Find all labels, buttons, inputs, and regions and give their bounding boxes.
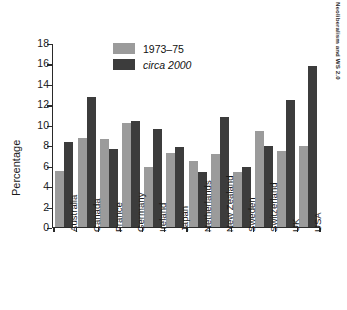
x-axis-category-label-text: Netherlands (202, 180, 213, 232)
x-axis-category-label-text: Sweden (246, 197, 257, 232)
y-tick-label: 12 (19, 98, 49, 111)
x-axis-category-label-text: Ireland (157, 203, 168, 232)
x-axis-category-label-text: Australia (68, 195, 79, 232)
legend-swatch (113, 59, 135, 70)
y-tick-label: 8 (19, 139, 49, 152)
x-axis-category-label: USA (297, 232, 319, 308)
legend-swatch (113, 43, 135, 54)
running-head: Neoliberalism and WS 2.0 (329, 0, 347, 120)
legend-item: circa 2000 (113, 58, 233, 71)
x-axis-category-label: Japan (164, 232, 186, 308)
y-tick-label: 18 (19, 37, 49, 50)
bar-chart-figure: Percentage 024681012141618 AustraliaCana… (0, 0, 330, 310)
legend-label: circa 2000 (143, 59, 191, 71)
x-axis-category-label: Netherlands (186, 232, 208, 308)
legend-item: 1973–75 (113, 42, 233, 55)
x-axis-category-label-text: UK (290, 219, 301, 232)
x-axis-category-label-text: New Zealand (224, 175, 235, 232)
x-axis-category-label: Switzerland (253, 232, 275, 308)
bar (299, 146, 308, 226)
y-tick-label: 2 (19, 201, 49, 214)
x-axis-category-label: Sweden (231, 232, 253, 308)
x-axis-category-label-text: Canada (91, 198, 102, 232)
y-tick-label: 16 (19, 57, 49, 70)
bar-group (297, 44, 319, 227)
bar (286, 100, 295, 227)
x-axis-category-label: Ireland (142, 232, 164, 308)
x-axis-category-label-text: USA (312, 212, 323, 232)
x-axis-category-label: France (98, 232, 120, 308)
x-axis-category-label: Germany (120, 232, 142, 308)
y-axis-title: Percentage (2, 88, 18, 198)
bar (55, 171, 64, 226)
x-axis-category-label: New Zealand (209, 232, 231, 308)
y-tick-label: 0 (19, 221, 49, 234)
x-axis-category-label: Australia (53, 232, 75, 308)
x-axis-category-label-text: Japan (179, 206, 190, 232)
x-axis-category-label: Canada (76, 232, 98, 308)
y-tick-label: 10 (19, 119, 49, 132)
running-head-text: Neoliberalism and WS 2.0 (335, 2, 342, 80)
y-tick-label: 6 (19, 160, 49, 173)
y-tick-label: 14 (19, 78, 49, 91)
bar (308, 66, 317, 227)
x-axis-category-label-text: France (113, 202, 124, 232)
x-axis-category-label-text: Switzerland (268, 182, 279, 232)
x-axis-category-labels: AustraliaCanadaFranceGermanyIrelandJapan… (53, 232, 319, 308)
chart-legend: 1973–75circa 2000 (113, 42, 233, 74)
x-axis-category-label: UK (275, 232, 297, 308)
y-tick-label: 4 (19, 180, 49, 193)
legend-label: 1973–75 (143, 43, 184, 55)
x-axis-category-label-text: Germany (135, 193, 146, 232)
